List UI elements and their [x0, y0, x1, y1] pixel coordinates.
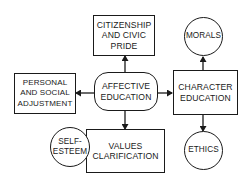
node-label: VALUES CLARIFICATION — [92, 141, 158, 162]
node-ethics: ETHICS — [184, 131, 223, 170]
node-morals: MORALS — [184, 17, 223, 56]
node-personal-social-adjustment: PERSONAL AND SOCIAL ADJUSTMENT — [14, 73, 76, 114]
node-self-esteem: SELF- ESTEEM — [50, 127, 90, 167]
node-label: SELF- ESTEEM — [53, 137, 87, 158]
node-values-clarification: VALUES CLARIFICATION — [86, 129, 165, 173]
node-label: CHARACTER EDUCATION — [178, 82, 232, 103]
node-label: PERSONAL AND SOCIAL ADJUSTMENT — [18, 78, 73, 110]
node-citizenship-civic-pride: CITIZENSHIP AND CIVIC PRIDE — [93, 15, 155, 56]
node-label: CITIZENSHIP AND CIVIC PRIDE — [97, 20, 152, 52]
node-label: ETHICS — [188, 145, 219, 156]
node-character-education: CHARACTER EDUCATION — [173, 70, 238, 115]
node-affective-education: AFFECTIVE EDUCATION — [94, 72, 158, 111]
node-label: MORALS — [186, 31, 221, 42]
node-label: AFFECTIVE EDUCATION — [101, 81, 152, 102]
